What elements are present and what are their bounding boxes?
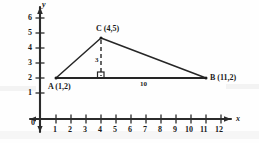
geometry-figure: x y 0 1 2 3 4 5 6 7 8 9 10 11 12 1 2 3 4… xyxy=(0,0,259,143)
base-measure-label: 10 xyxy=(140,81,147,88)
x-tick-label-5: 5 xyxy=(113,126,117,134)
y-tick-label-1: 1 xyxy=(28,89,32,97)
height-measure-label: 3 xyxy=(95,57,99,64)
x-tick-label-4: 4 xyxy=(98,126,102,134)
y-axis-label: y xyxy=(42,1,46,9)
y-tick-label-4: 4 xyxy=(28,44,32,52)
x-tick-label-11: 11 xyxy=(200,126,208,134)
vertex-point-A xyxy=(55,77,58,80)
coordinate-plane-drawing xyxy=(0,0,259,143)
point-label-B: B (11,2) xyxy=(210,74,236,82)
x-tick-label-3: 3 xyxy=(83,126,87,134)
x-axis-arrowhead xyxy=(224,116,231,122)
point-label-A: A (1,2) xyxy=(48,83,71,91)
vertex-point-B xyxy=(205,77,208,80)
y-tick-label-3: 3 xyxy=(28,59,32,67)
origin-label: 0 xyxy=(31,119,35,127)
x-tick-label-10: 10 xyxy=(185,126,193,134)
point-label-C: C (4,5) xyxy=(96,25,119,33)
triangle-side-CB xyxy=(101,38,206,78)
x-tick-label-2: 2 xyxy=(68,126,72,134)
x-tick-label-8: 8 xyxy=(158,126,162,134)
y-tick-label-2: 2 xyxy=(28,74,32,82)
vertex-point-C xyxy=(100,37,103,40)
x-tick-label-9: 9 xyxy=(173,126,177,134)
y-tick-label-5: 5 xyxy=(28,29,32,37)
x-tick-label-7: 7 xyxy=(143,126,147,134)
x-tick-label-6: 6 xyxy=(128,126,132,134)
y-tick-label-6: 6 xyxy=(28,14,32,22)
x-tick-label-12: 12 xyxy=(215,126,223,134)
y-axis-arrowhead-bottom xyxy=(37,126,42,132)
x-tick-label-1: 1 xyxy=(53,126,57,134)
x-axis-label: x xyxy=(236,115,240,123)
